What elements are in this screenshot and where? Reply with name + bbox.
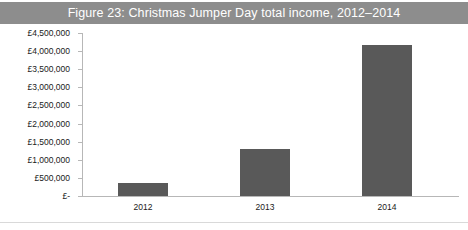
y-axis-tick-mark [78, 196, 82, 197]
y-axis-tick-label: £500,000 [35, 173, 70, 183]
y-axis-tick-mark [78, 105, 82, 106]
y-axis-tick-mark [78, 51, 82, 52]
y-axis-tick-label: £3,000,000 [27, 82, 70, 92]
y-axis-tick-mark [78, 124, 82, 125]
y-axis-tick-label: £4,500,000 [27, 28, 70, 38]
y-axis-tick-label: £2,500,000 [27, 100, 70, 110]
figure-container: Figure 23: Christmas Jumper Day total in… [0, 0, 468, 230]
x-axis-tick-label: 2012 [98, 202, 188, 212]
y-axis-tick-label: £3,500,000 [27, 64, 70, 74]
bar-series-group [83, 33, 459, 196]
y-axis-tick-label: £- [62, 191, 70, 201]
x-axis-tick-label: 2014 [342, 202, 432, 212]
y-axis-tick-mark [78, 160, 82, 161]
x-axis-tick-label: 2013 [220, 202, 310, 212]
y-axis-tick-label: £1,000,000 [27, 155, 70, 165]
figure-title-bar: Figure 23: Christmas Jumper Day total in… [0, 2, 468, 24]
figure-bottom-rule [0, 222, 468, 223]
y-axis-tick-label: £2,000,000 [27, 119, 70, 129]
bar-2013 [240, 149, 290, 196]
y-axis-tick-mark [78, 87, 82, 88]
y-axis-tick-mark [78, 33, 82, 34]
x-axis-label-group: 201220132014 [83, 202, 459, 218]
y-axis-tick-mark [78, 69, 82, 70]
x-axis-line [82, 196, 459, 197]
y-axis-tick-mark [78, 142, 82, 143]
y-axis-label-group: £-£500,000£1,000,000£1,500,000£2,000,000… [0, 26, 76, 222]
bar-2012 [118, 183, 168, 196]
chart-plot-area: £-£500,000£1,000,000£1,500,000£2,000,000… [0, 26, 468, 222]
y-axis-tick-label: £4,000,000 [27, 46, 70, 56]
bar-2014 [362, 45, 412, 196]
y-axis-tick-label: £1,500,000 [27, 137, 70, 147]
y-axis-tick-mark [78, 178, 82, 179]
figure-title: Figure 23: Christmas Jumper Day total in… [68, 6, 401, 20]
